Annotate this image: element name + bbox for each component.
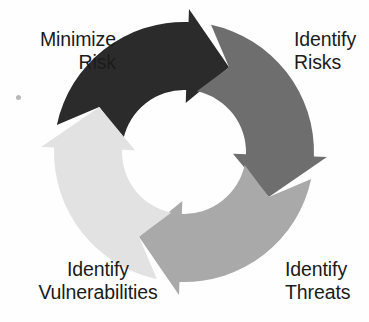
scan-speck-artifact — [16, 95, 21, 100]
label-line-2: Threats — [285, 281, 350, 304]
diagram-canvas: Identify Risks Identify Threats Identify… — [0, 0, 369, 322]
segment-label-minimize-risk: Minimize Risk — [12, 28, 116, 73]
label-line-1: Identify — [285, 258, 350, 281]
label-line-2: Risks — [294, 51, 356, 74]
label-line-2: Vulnerabilities — [22, 281, 174, 304]
segment-label-identify-threats: Identify Threats — [285, 258, 350, 303]
segment-label-identify-risks: Identify Risks — [294, 28, 356, 73]
label-line-1: Identify — [22, 258, 174, 281]
label-line-2: Risk — [12, 51, 116, 74]
label-line-1: Identify — [294, 28, 356, 51]
segment-label-identify-vulnerabilities: Identify Vulnerabilities — [22, 258, 174, 303]
label-line-1: Minimize — [12, 28, 116, 51]
